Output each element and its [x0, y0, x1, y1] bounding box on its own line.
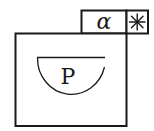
asterisk-icon [130, 14, 146, 30]
diagram-canvas: α P [0, 0, 154, 131]
half-circle-label: P [61, 64, 76, 89]
tab-label: α [97, 9, 112, 34]
tab: α [82, 9, 149, 34]
